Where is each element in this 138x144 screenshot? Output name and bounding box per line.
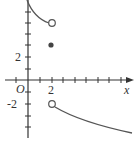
graph-canvas xyxy=(0,0,138,144)
y-tick-label-2: 2 xyxy=(15,51,21,63)
y-tick-label-neg2: -2 xyxy=(7,98,17,110)
x-axis-label: x xyxy=(124,84,129,96)
function-graph: 2 -2 O 2 x xyxy=(0,0,138,144)
origin-label: O xyxy=(16,83,25,95)
filled-dot-marker xyxy=(48,42,53,47)
open-circle-marker xyxy=(49,20,56,27)
x-tick-label-2: 2 xyxy=(48,84,54,96)
open-circle-marker xyxy=(49,101,56,108)
right-branch-curve xyxy=(55,107,132,133)
